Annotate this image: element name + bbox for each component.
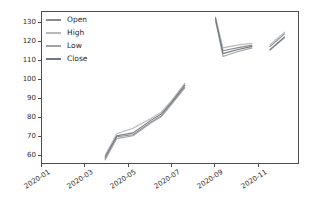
legend-label: Close	[67, 55, 87, 63]
x-tick-mark	[258, 164, 259, 167]
legend-line-swatch	[46, 45, 61, 47]
y-tick-mark	[38, 22, 41, 23]
legend-item-high: High	[46, 26, 87, 39]
y-tick-label: 130	[0, 18, 36, 26]
legend-item-low: Low	[46, 39, 87, 52]
legend-label: Open	[67, 16, 87, 24]
x-tick-mark	[171, 164, 172, 167]
plot-area: OpenHighLowClose	[41, 11, 299, 164]
y-tick-label: 60	[0, 151, 36, 159]
legend: OpenHighLowClose	[46, 13, 87, 65]
x-tick-mark	[84, 164, 85, 167]
x-tick-label: 2020-03	[66, 168, 95, 191]
y-tick-label: 120	[0, 37, 36, 45]
legend-label: Low	[67, 42, 82, 50]
y-tick-label: 70	[0, 132, 36, 140]
legend-line-swatch	[46, 32, 61, 34]
legend-line-swatch	[46, 19, 61, 21]
y-tick-mark	[38, 60, 41, 61]
y-tick-label: 110	[0, 56, 36, 64]
x-tick-label: 2020-07	[153, 168, 182, 191]
y-tick-mark	[38, 41, 41, 42]
series-line-open	[105, 20, 285, 160]
y-tick-mark	[38, 98, 41, 99]
x-tick-mark	[41, 164, 42, 167]
legend-label: High	[67, 29, 84, 37]
y-tick-mark	[38, 79, 41, 80]
x-tick-label: 2020-09	[196, 168, 225, 191]
y-tick-mark	[38, 136, 41, 137]
legend-item-open: Open	[46, 13, 87, 26]
x-tick-label: 2020-11	[239, 168, 268, 191]
y-tick-mark	[38, 155, 41, 156]
figure: OpenHighLowClose 60708090100110120130 20…	[0, 0, 311, 205]
x-tick-mark	[214, 164, 215, 167]
y-tick-label: 100	[0, 75, 36, 83]
y-tick-mark	[38, 117, 41, 118]
y-tick-label: 80	[0, 113, 36, 121]
legend-line-swatch	[46, 58, 61, 60]
series-line-low	[105, 21, 285, 161]
y-tick-label: 90	[0, 94, 36, 102]
x-tick-label: 2020-05	[109, 168, 138, 191]
legend-item-close: Close	[46, 52, 87, 65]
x-tick-mark	[128, 164, 129, 167]
x-tick-label: 2020-01	[22, 168, 51, 191]
